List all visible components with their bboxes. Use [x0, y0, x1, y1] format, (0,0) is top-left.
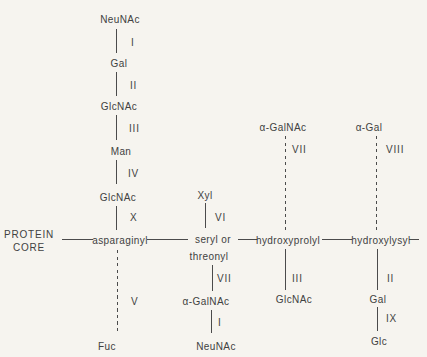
- residue-asparaginyl: asparaginyl: [92, 235, 148, 246]
- sugar-glcnac-hyp: GlcNAc: [276, 294, 312, 305]
- linkage-label-asn-v: V: [131, 296, 138, 307]
- linkage-label-ser-i: I: [218, 317, 222, 328]
- sugar-neunac-asn: NeuNAc: [100, 14, 140, 25]
- bond-asn-i: [116, 29, 117, 53]
- sugar-glcnac-asn-2: GlcNAc: [100, 192, 136, 203]
- backbone-bond-core-asparaginyl: [62, 239, 93, 240]
- backbone-bond-asparaginyl-seryl: [147, 239, 188, 240]
- linkage-label-ser-vi: VI: [215, 212, 226, 223]
- bond-ser-i: [211, 310, 212, 333]
- linkage-label-hyl-ix: IX: [386, 313, 397, 324]
- residue-seryl-or: seryl or: [195, 234, 231, 245]
- glycoprotein-linkage-diagram: PROTEIN CORE NeuNAc I Gal II GlcNAc III …: [0, 0, 427, 357]
- sugar-glc: Glc: [371, 336, 387, 347]
- residue-threonyl: threonyl: [190, 251, 229, 262]
- sugar-xyl: Xyl: [197, 190, 212, 201]
- backbone-bond-hydroxyprolyl-hydroxylysyl: [322, 239, 352, 240]
- backbone-bond-seryl-hydroxyprolyl: [238, 239, 257, 240]
- sugar-gal-hyl: Gal: [370, 294, 387, 305]
- sugar-galnac-ser: α-GalNAc: [183, 296, 230, 307]
- linkage-label-asn-iv: IV: [128, 168, 139, 179]
- protein-core-label: PROTEIN CORE: [4, 228, 54, 254]
- linkage-label-hyl-viii: VIII: [386, 144, 404, 155]
- sugar-fuc: Fuc: [98, 341, 116, 352]
- bond-hyp-iii: [285, 249, 286, 290]
- residue-hydroxylysyl: hydroxylysyl: [351, 235, 410, 246]
- protein-core-line2: CORE: [4, 241, 54, 254]
- linkage-label-ser-vii: VII: [217, 273, 232, 284]
- bond-hyl-viii-dashed: [376, 136, 377, 231]
- linkage-label-asn-ii: II: [130, 80, 137, 91]
- linkage-label-hyl-ii: II: [387, 273, 394, 284]
- sugar-gal-hyl-top: α-Gal: [356, 122, 383, 133]
- sugar-galnac-hyp: α-GalNAc: [260, 122, 307, 133]
- bond-asn-v-dashed: [117, 250, 118, 332]
- bond-hyl-ix: [377, 307, 378, 331]
- linkage-label-asn-x: X: [130, 212, 137, 223]
- sugar-man-asn: Man: [111, 146, 132, 157]
- protein-core-line1: PROTEIN: [4, 228, 54, 241]
- sugar-glcnac-asn-1: GlcNAc: [101, 101, 137, 112]
- linkage-label-hyp-iii: III: [292, 273, 303, 284]
- bond-ser-vii: [212, 265, 213, 291]
- bond-asn-x: [116, 206, 117, 230]
- bond-asn-ii: [116, 72, 117, 96]
- bond-hyp-vii-dashed: [285, 136, 286, 231]
- sugar-gal-asn: Gal: [111, 58, 128, 69]
- sugar-neunac-ser: NeuNAc: [196, 341, 236, 352]
- bond-hyl-ii: [377, 249, 378, 290]
- bond-ser-vi: [205, 203, 206, 228]
- bond-asn-iii: [116, 115, 117, 140]
- linkage-label-asn-iii: III: [129, 123, 140, 134]
- linkage-label-hyp-vii: VII: [292, 144, 307, 155]
- bond-asn-iv: [116, 160, 117, 184]
- residue-hydroxyprolyl: hydroxyprolyl: [256, 235, 320, 246]
- linkage-label-asn-i: I: [131, 37, 135, 48]
